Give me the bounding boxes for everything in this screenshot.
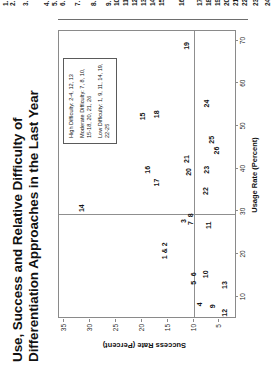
x-tick-label: 50: [239, 122, 246, 129]
data-point-label: 8: [187, 213, 194, 217]
y-tick-mark: [167, 319, 168, 322]
data-point-label: 5: [189, 281, 196, 285]
x-tick-label: 10: [239, 293, 246, 300]
chart-title-line2: Differentiation Approaches in the Last Y…: [26, 42, 42, 362]
data-point-label: 24: [203, 100, 210, 108]
legend-group-label-cont: 15-18, 20, 21, 26: [86, 64, 94, 138]
data-point-label: 1 & 2: [160, 242, 167, 259]
legend-group-label: Low Difficulty: 1, 9, 11, 14, 19,: [97, 64, 105, 138]
figure-canvas: Use, Success and Relative Difficulty of …: [0, 0, 272, 370]
legend-group-label-cont: 22-25: [104, 64, 112, 138]
data-point-label: 22: [201, 187, 208, 195]
legend-group: Moderate Difficulty: 7, 8, 10,15-18, 20,…: [79, 64, 94, 138]
data-point-label: 12: [220, 309, 227, 317]
y-tick-label: 35: [60, 324, 67, 342]
y-tick-mark: [218, 319, 219, 322]
y-tick-label: 15: [163, 324, 170, 342]
legend-group-label: High Difficulty: 2-4, 12, 13: [68, 64, 76, 138]
data-point-label: 15: [138, 112, 145, 120]
x-tick-label: 20: [239, 250, 246, 257]
x-tick-mark: [235, 125, 238, 126]
data-point-label: 26: [213, 147, 220, 155]
legend-group-label: Moderate Difficulty: 7, 8, 10,: [79, 64, 87, 138]
data-point-label: 4: [195, 302, 202, 306]
y-tick-label: 20: [137, 324, 144, 342]
data-point-label: 6: [189, 272, 196, 276]
legend-group: High Difficulty: 2-4, 12, 13: [68, 64, 76, 138]
x-tick-mark: [235, 253, 238, 254]
x-tick-mark: [235, 296, 238, 297]
legend-box: High Difficulty: 2-4, 12, 13Moderate Dif…: [63, 58, 117, 144]
x-tick-label: 30: [239, 208, 246, 215]
y-tick-label: 25: [111, 324, 118, 342]
data-point-label: 11: [204, 222, 211, 229]
y-tick-label: 5: [215, 324, 222, 342]
data-point-label: 16: [144, 166, 151, 174]
data-point-label: 18: [153, 110, 160, 118]
data-point-label: 20: [185, 168, 192, 176]
y-axis-label: Success Rate (Percent): [103, 341, 186, 350]
y-tick-mark: [193, 319, 194, 322]
data-point-label: 19: [182, 42, 189, 50]
reference-line-vertical: [59, 214, 235, 215]
chart-title-line1: Use, Success and Relative Difficulty of: [10, 118, 25, 362]
data-point-label: 7: [187, 221, 194, 225]
data-point-label: 9: [208, 304, 215, 308]
x-tick-label: 60: [239, 80, 246, 87]
chart-title: Use, Success and Relative Difficulty of …: [10, 42, 43, 362]
data-point-label: 13: [220, 281, 227, 289]
y-tick-mark: [89, 319, 90, 322]
x-axis-label: Usage Rate (Percent): [250, 137, 259, 212]
y-tick-mark: [141, 319, 142, 322]
y-tick-label: 30: [86, 324, 93, 342]
data-point-label: 10: [201, 270, 208, 278]
y-tick-mark: [63, 319, 64, 322]
x-tick-mark: [235, 82, 238, 83]
data-point-label: 21: [182, 155, 189, 163]
data-point-label: 23: [203, 166, 210, 174]
x-tick-mark: [235, 40, 238, 41]
x-tick-label: 70: [239, 37, 246, 44]
x-tick-mark: [235, 210, 238, 211]
x-tick-label: 40: [239, 165, 246, 172]
legend-group: Low Difficulty: 1, 9, 11, 14, 19,22-25: [97, 64, 112, 138]
y-tick-label: 10: [189, 324, 196, 342]
y-tick-mark: [115, 319, 116, 322]
data-point-label: 17: [153, 179, 160, 187]
data-point-label: 3: [180, 219, 187, 223]
x-tick-mark: [235, 168, 238, 169]
data-point-label: 25: [208, 136, 215, 144]
data-point-label: 14: [77, 204, 84, 212]
